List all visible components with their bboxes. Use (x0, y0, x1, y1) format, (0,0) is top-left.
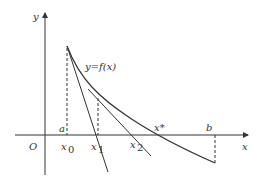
b-label: b (206, 122, 212, 133)
origin-label: O (29, 141, 37, 152)
xstar-label: x* (154, 122, 165, 133)
svg-text:x: x (61, 141, 67, 152)
newton-method-diagram: y x O y=f(x) a b x* x 0 x 1 x 2 (0, 0, 265, 190)
svg-text:0: 0 (68, 144, 74, 155)
svg-text:1: 1 (98, 144, 104, 155)
svg-text:x: x (91, 141, 97, 152)
y-axis-label: y (32, 11, 39, 22)
svg-text:2: 2 (137, 142, 143, 153)
x0-label: x 0 (61, 141, 74, 155)
svg-text:x: x (130, 139, 136, 150)
a-label: a (59, 123, 65, 134)
x1-label: x 1 (91, 141, 104, 155)
x-axis-label: x (242, 141, 248, 152)
x2-label: x 2 (130, 139, 143, 153)
diagram-canvas: y x O y=f(x) a b x* x 0 x 1 x 2 (0, 0, 265, 190)
curve-label: y=f(x) (84, 61, 116, 72)
